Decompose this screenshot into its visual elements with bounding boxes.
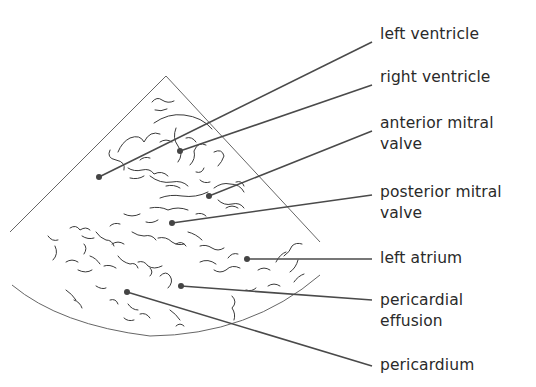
label-left-ventricle: left ventricle <box>380 24 479 45</box>
leader-pericardial-effusion <box>181 286 372 300</box>
label-text-line-1: anterior mitral <box>380 113 494 134</box>
dot-pericardial-effusion <box>178 283 184 289</box>
leader-left-ventricle <box>99 42 372 177</box>
label-pericardial-effusion: pericardial effusion <box>380 290 463 332</box>
dot-left-atrium <box>244 256 250 262</box>
sector-left-edge <box>10 76 166 232</box>
leader-posterior-mitral-valve <box>172 195 372 223</box>
label-right-ventricle: right ventricle <box>380 67 491 88</box>
dot-posterior-mitral-valve <box>169 220 175 226</box>
label-pericardium: pericardium <box>380 355 474 376</box>
label-text: right ventricle <box>380 67 491 88</box>
label-anterior-mitral-valve: anterior mitral valve <box>380 113 494 155</box>
dot-anterior-mitral-valve <box>206 193 212 199</box>
label-text-line-2: valve <box>380 203 502 224</box>
label-left-atrium: left atrium <box>380 248 462 269</box>
label-text-line-2: valve <box>380 134 494 155</box>
label-text: pericardium <box>380 355 474 376</box>
dot-left-ventricle <box>96 174 102 180</box>
sector-right-edge <box>166 76 320 242</box>
leader-pericardium <box>127 292 372 366</box>
leader-right-ventricle <box>180 85 372 151</box>
dot-pericardium <box>124 289 130 295</box>
leader-anterior-mitral-valve <box>209 131 372 196</box>
label-text-line-2: effusion <box>380 311 463 332</box>
label-text-line-1: posterior mitral <box>380 182 502 203</box>
label-text: left atrium <box>380 248 462 269</box>
label-text-line-1: pericardial <box>380 290 463 311</box>
ultrasound-sector <box>10 76 320 336</box>
dot-right-ventricle <box>177 148 183 154</box>
label-posterior-mitral-valve: posterior mitral valve <box>380 182 502 224</box>
label-text: left ventricle <box>380 24 479 45</box>
